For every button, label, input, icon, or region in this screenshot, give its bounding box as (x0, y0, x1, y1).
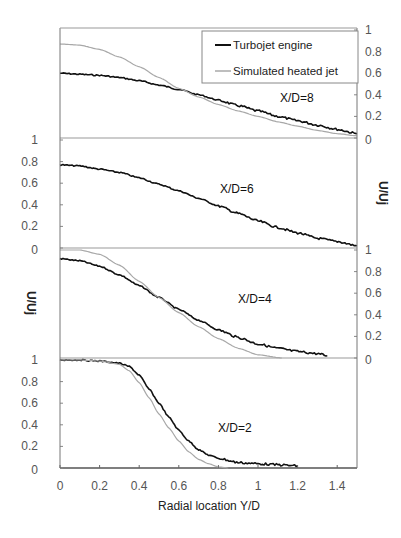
x-tick-label: 0.4 (131, 479, 148, 493)
y-tick-label: 1 (31, 133, 38, 147)
y-tick-label: 0.2 (365, 109, 382, 123)
x-tick-label: 0.6 (170, 479, 187, 493)
legend-label-turbojet: Turbojet engine (233, 39, 313, 51)
panels: 00.20.40.60.81X/D=800.20.40.60.81X/D=600… (21, 23, 382, 477)
legend: Turbojet engine Simulated heated jet (202, 31, 358, 83)
y-tick-label: 0.6 (21, 396, 38, 410)
y-tick-label: 0 (31, 463, 38, 477)
y-tick-label: 0.8 (21, 155, 38, 169)
y-tick-label: 0.4 (21, 198, 38, 212)
y-tick-label: 0.2 (365, 329, 382, 343)
y-tick-label: 0.6 (365, 66, 382, 80)
x-tick-label: 0.8 (210, 479, 227, 493)
panel-xd4: 00.20.40.60.81X/D=4 (60, 243, 382, 367)
x-tick-label: 1.2 (289, 479, 306, 493)
panel-xd2: 00.20.40.60.81X/D=2 (21, 353, 357, 477)
series-turbojet-line (60, 258, 327, 356)
series-turbojet-line (60, 165, 357, 246)
y-tick-label: 0.6 (21, 176, 38, 190)
y-tick-label: 0 (365, 353, 372, 367)
y-tick-label: 1 (31, 353, 38, 367)
y-axis-title-right: U/Uj (376, 181, 390, 205)
y-tick-label: 0.2 (21, 219, 38, 233)
y-tick-label: 0.8 (365, 45, 382, 59)
legend-label-simulated: Simulated heated jet (233, 65, 339, 77)
series-turbojet-line (60, 360, 298, 467)
y-tick-label: 0.6 (365, 286, 382, 300)
panel-label: X/D=6 (220, 182, 254, 196)
x-axis-title: Radial location Y/D (158, 499, 260, 513)
y-tick-label: 0 (31, 243, 38, 257)
chart: 00.20.40.60.81X/D=800.20.40.60.81X/D=600… (0, 0, 401, 538)
y-tick-label: 0.4 (21, 418, 38, 432)
x-tick-label: 0 (57, 479, 64, 493)
y-tick-label: 0.8 (21, 375, 38, 389)
y-tick-label: 0.2 (21, 439, 38, 453)
x-tick-label: 1.4 (329, 479, 346, 493)
y-axis-title-left: U/Uj (24, 291, 38, 315)
y-tick-label: 0.4 (365, 88, 382, 102)
y-tick-label: 1 (365, 243, 372, 257)
y-tick-label: 0 (365, 133, 372, 147)
panel-label: X/D=8 (280, 91, 314, 105)
y-tick-label: 1 (365, 23, 372, 37)
x-tick-label: 0.2 (91, 479, 108, 493)
y-tick-label: 0.4 (365, 308, 382, 322)
panel-xd6: 00.20.40.60.81X/D=6 (21, 133, 357, 257)
x-axis: 00.20.40.60.811.21.4 (57, 465, 346, 493)
y-tick-label: 0.8 (365, 265, 382, 279)
panel-label: X/D=4 (238, 292, 272, 306)
x-tick-label: 1 (255, 479, 262, 493)
panel-label: X/D=2 (218, 421, 252, 435)
